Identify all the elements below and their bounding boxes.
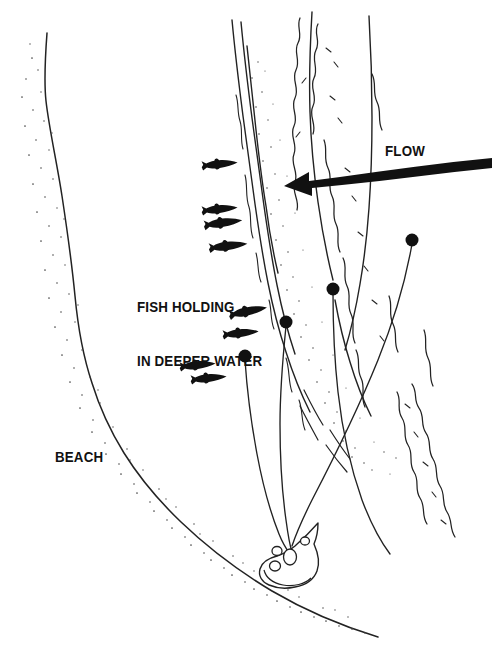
bobber-1 xyxy=(406,234,419,247)
angler-head xyxy=(284,549,297,565)
label-beach: BEACH xyxy=(55,448,103,466)
bobber-3 xyxy=(280,316,293,329)
boat-seat xyxy=(270,561,281,571)
diagram-canvas: FISH HOLDING IN DEEPER WATER BEACH FLOW xyxy=(0,0,492,659)
label-fish-holding-line2: IN DEEPER WATER xyxy=(137,352,262,370)
label-flow: FLOW xyxy=(385,142,425,160)
angler-body xyxy=(272,547,282,556)
boat-motor xyxy=(301,537,310,545)
label-fish-holding-line1: FISH HOLDING xyxy=(137,298,262,316)
label-fish-holding: FISH HOLDING IN DEEPER WATER xyxy=(137,262,262,406)
bobber-2 xyxy=(327,283,340,296)
